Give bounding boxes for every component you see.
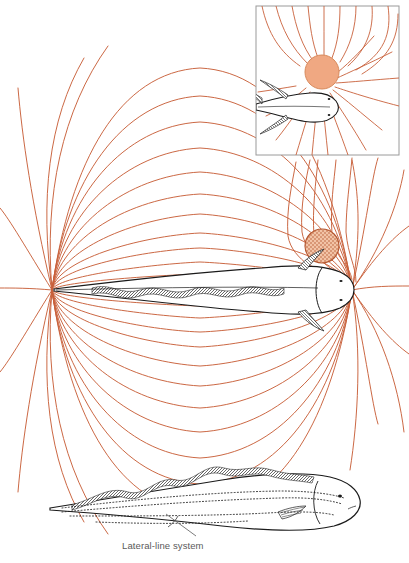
inset-fish-eye-lower [328,114,331,116]
inset-fish-eye-upper [328,98,331,100]
electric-fish-field-diagram: Lateral-line system [0,0,409,563]
inset-panel [246,6,399,155]
bottom-fish-eye [338,494,342,497]
fish-eye-upper [339,280,342,282]
fish-eye-lower [339,299,342,301]
lateral-line-label: Lateral-line system [122,540,204,551]
conducting-object-inset [305,55,339,89]
